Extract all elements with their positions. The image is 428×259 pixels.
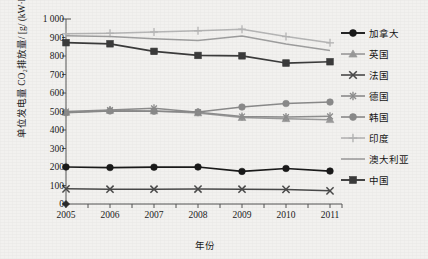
y-tick-label: 1 000	[24, 14, 64, 24]
y-tick-label: 500	[24, 107, 64, 117]
legend-item-label: 澳大利亚	[369, 152, 409, 166]
y-tick-label: 600	[24, 88, 64, 98]
legend-item[interactable]: 印度	[340, 127, 428, 148]
legend-item[interactable]: 中国	[340, 169, 428, 190]
legend-marker-icon	[340, 26, 366, 40]
x-axis-title: 年份	[150, 238, 260, 252]
legend-item[interactable]: 德国	[340, 85, 428, 106]
legend-item-label: 印度	[369, 131, 389, 145]
x-tick-label: 2010	[266, 210, 306, 220]
legend-item-label: 中国	[369, 173, 389, 187]
y-tick-label: 100	[24, 181, 64, 191]
legend-item[interactable]: 韩国	[340, 106, 428, 127]
legend-item-label: 法国	[369, 68, 389, 82]
x-tick-label: 2006	[90, 210, 130, 220]
legend-marker-icon	[340, 110, 366, 124]
chart-container: 单位发电量 CO₂排放量/ [g/ (kW·h) ] 年份 0100200300…	[0, 0, 428, 259]
legend-marker-icon	[340, 89, 366, 103]
legend-item-label: 加拿大	[369, 26, 399, 40]
legend-marker-icon	[340, 131, 366, 145]
y-tick-label: 900	[24, 33, 64, 43]
legend-item[interactable]: 澳大利亚	[340, 148, 428, 169]
series-line	[63, 164, 334, 175]
y-tick-label: 300	[24, 144, 64, 154]
legend-marker-icon	[340, 173, 366, 187]
legend-marker-icon	[340, 152, 366, 166]
y-tick-label: 700	[24, 70, 64, 80]
x-tick-label: 2007	[134, 210, 174, 220]
x-tick-label: 2009	[222, 210, 262, 220]
x-tick-label: 2005	[46, 210, 86, 220]
legend-item-label: 韩国	[369, 110, 389, 124]
legend-item[interactable]: 法国	[340, 64, 428, 85]
legend-item-label: 英国	[369, 47, 389, 61]
chart-legend: 加拿大英国法国德国韩国印度澳大利亚中国	[340, 22, 428, 190]
x-tick-label: 2011	[310, 210, 350, 220]
legend-item[interactable]: 英国	[340, 43, 428, 64]
x-tick-label: 2008	[178, 210, 218, 220]
legend-item-label: 德国	[369, 89, 389, 103]
y-tick-label: 200	[24, 162, 64, 172]
series-line	[62, 185, 333, 194]
legend-marker-icon	[340, 47, 366, 61]
y-tick-label: 400	[24, 125, 64, 135]
legend-item[interactable]: 加拿大	[340, 22, 428, 43]
y-tick-label: 0	[24, 199, 64, 209]
legend-marker-icon	[340, 68, 366, 82]
y-tick-label: 800	[24, 51, 64, 61]
series-line	[63, 99, 334, 116]
y-axis-tick-labels: 01002003004005006007008009001 000	[20, 0, 64, 259]
series-line	[63, 39, 334, 66]
